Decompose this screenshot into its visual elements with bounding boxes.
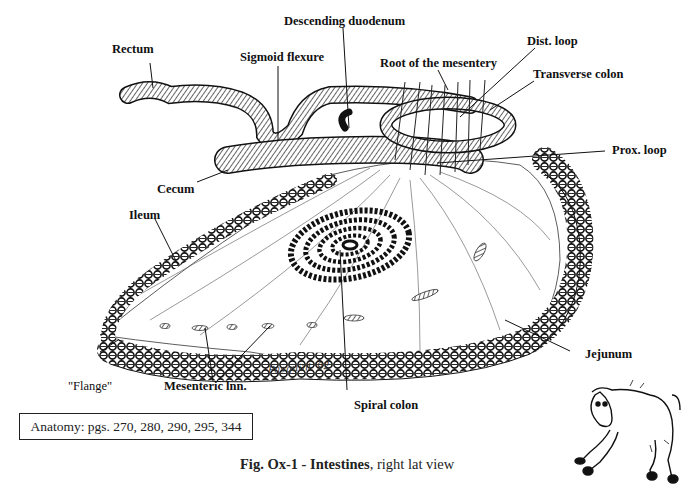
label-transverse-colon: Transverse colon	[533, 67, 623, 82]
label-mesenteric-lnn: Mesenteric lnn.	[164, 379, 247, 394]
caption-subtitle: , right lat view	[370, 456, 455, 472]
label-prox-loop: Prox. loop	[612, 143, 667, 158]
anatomy-reference-box: Anatomy: pgs. 270, 280, 290, 295, 344	[19, 413, 253, 440]
label-cecum: Cecum	[157, 182, 195, 197]
label-jejunum: Jejunum	[585, 347, 632, 362]
label-flange: "Flange"	[68, 379, 112, 394]
label-dist-loop: Dist. loop	[527, 34, 578, 49]
label-rectum: Rectum	[112, 42, 154, 57]
label-spiral-colon: Spiral colon	[354, 398, 418, 413]
cartoon-cow-illustration	[575, 380, 680, 483]
label-root-of-mesentery: Root of the mesentery	[380, 56, 497, 71]
label-ileum: Ileum	[129, 208, 160, 223]
label-descending-duodenum: Descending duodenum	[284, 14, 405, 29]
caption-title: Fig. Ox-1 - Intestines	[240, 456, 370, 472]
figure-caption: Fig. Ox-1 - Intestines, right lat view	[240, 456, 454, 473]
label-sigmoid-flexure: Sigmoid flexure	[240, 50, 324, 65]
